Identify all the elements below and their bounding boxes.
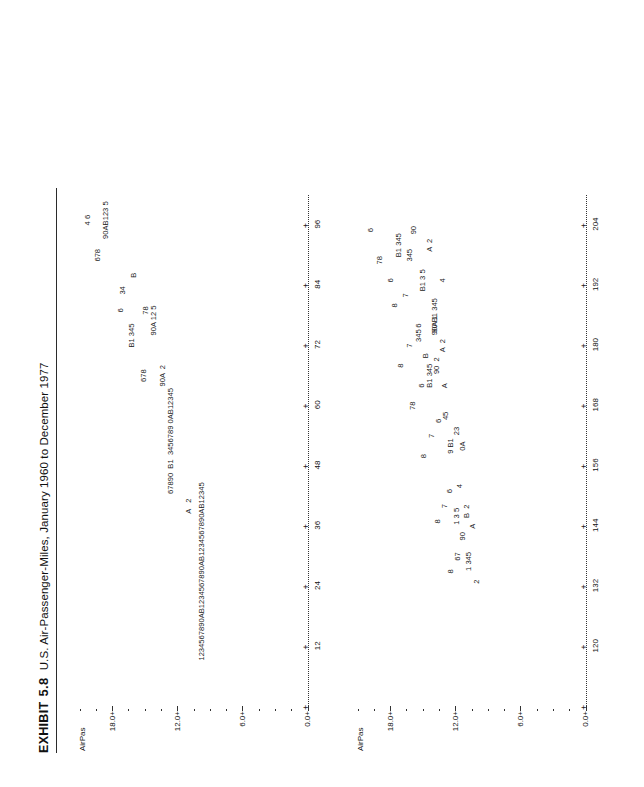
plot-symbol: 90A 1 [430,316,439,335]
plot-symbol: 345 [405,249,414,262]
y-axis-minor-tick [96,709,97,711]
y-axis-major-tick [520,706,521,711]
x-axis-tick: + [302,584,312,589]
x-axis-tick: + [580,644,590,649]
y-axis-minor-tick [472,709,473,711]
plot-symbol: 6 [366,228,375,232]
exhibit-caption: EXHIBIT5.8U.S. Air-Passenger-Miles, Janu… [36,153,51,753]
document-page: EXHIBIT5.8U.S. Air-Passenger-Miles, Janu… [0,0,644,787]
x-tick-label: 168 [591,395,600,415]
x-axis-tick: + [580,524,590,529]
x-tick-label: 72 [313,335,322,355]
y-axis-minor-tick [291,709,292,711]
plot-symbol: 90 [458,532,467,540]
y-tick-label: 0.0+ [581,711,590,749]
y-axis-minor-tick [161,709,162,711]
y-tick-label: 18.0+ [386,711,395,749]
x-axis-tick: + [302,464,312,469]
x-tick-label: 132 [591,576,600,596]
plot-symbol: 8 [396,364,405,368]
chart-panel-2: AirPas18.0+12.0+6.0+0.0+++120+132+144+15… [352,187,620,753]
plot-symbol: 90AB123 5 [101,201,110,239]
x-tick-label: 12 [313,636,322,656]
y-tick-label: 18.0+ [108,711,117,749]
y-axis-minor-tick [569,709,570,711]
x-tick-label: 144 [591,515,600,535]
y-tick-label: 12.0+ [173,711,182,749]
plot-symbol: 90A 12 5 [149,306,158,336]
plot-symbol: 8 [390,303,399,307]
y-axis-minor-tick [226,709,227,711]
y-axis-minor-tick [439,709,440,711]
plot-symbol: B 2 [462,504,471,518]
plot-symbol: 9 B1 [446,438,455,454]
y-tick-label: 12.0+ [451,711,460,749]
x-tick-label: 204 [591,214,600,234]
header-rule [56,188,57,753]
y-axis-minor-tick [80,709,81,711]
plot-symbol: A 2 [438,339,447,352]
y-axis-minor-tick [275,709,276,711]
x-tick-label: 24 [313,576,322,596]
x-axis-line [308,195,309,707]
y-axis-minor-tick [423,709,424,711]
plot-symbol: 90 2 [432,357,441,374]
y-axis-minor-tick [145,709,146,711]
y-axis-major-tick [242,706,243,711]
plot-symbol: 4 [455,484,464,488]
rotated-page-content: EXHIBIT5.8U.S. Air-Passenger-Miles, Janu… [0,0,644,787]
x-tick-label: 120 [591,636,600,656]
x-axis-tick: + [302,343,312,348]
plot-symbol: 345 [414,329,423,342]
exhibit-title-text: U.S. Air-Passenger-Miles, January 1960 t… [38,362,50,670]
y-axis-label: AirPas [78,727,87,751]
x-tick-label: 156 [591,455,600,475]
y-axis-major-tick [390,706,391,711]
x-axis-tick: + [302,283,312,288]
plot-symbol: 78 [375,256,384,264]
plot-symbol: 7 [440,504,449,508]
y-axis-major-tick [112,706,113,711]
x-axis-tick: + [580,403,590,408]
x-tick-label: 192 [591,274,600,294]
x-axis-tick: + [580,343,590,348]
x-axis-tick: + [302,223,312,228]
plot-symbol: A 2 [425,239,434,252]
plot-symbol: B1 3 5 [418,269,427,291]
exhibit-label: EXHIBIT [37,702,51,753]
plot-symbol: 78 [408,402,417,410]
plot-symbol: 67890 B1 3456789 0AB12345 [166,388,175,494]
plot-symbol: 7 [427,434,436,438]
plot-symbol: 2 [472,579,481,583]
y-axis-minor-tick [358,709,359,711]
plot-symbol: 678 [93,249,102,262]
plot-symbol: 8 [446,569,455,573]
x-tick-label: 96 [313,214,322,234]
plot-symbol: 1234567890AB1234567890AB1234567890AB1234… [197,482,206,660]
x-tick-label: 84 [313,274,322,294]
x-tick-label: 60 [313,395,322,415]
x-axis-line [586,195,587,707]
plot-symbol: B1 345 [394,233,403,257]
plot-symbol: 6 [414,323,423,327]
y-axis-minor-tick [504,709,505,711]
plot-symbol: 67 [453,552,462,560]
chart-panel-1: AirPas18.0+12.0+6.0+0.0+++12+24+36+48+60… [74,187,342,753]
y-axis-minor-tick [194,709,195,711]
plot-symbol: 8 [433,519,442,523]
x-tick-label: 36 [313,515,322,535]
y-axis-minor-tick [537,709,538,711]
plot-symbol: B [421,353,430,358]
x-axis-origin-tick: + [302,705,312,710]
plot-symbol: B [129,273,138,278]
plot-symbol: 8 [419,454,428,458]
x-tick-label: 180 [591,335,600,355]
y-axis-minor-tick [210,709,211,711]
y-axis-minor-tick [406,709,407,711]
plot-symbol: 23 [452,427,461,435]
y-axis-major-tick [455,706,456,711]
x-axis-tick: + [302,644,312,649]
plot-symbol: A 2 [184,499,193,514]
y-axis-minor-tick [128,709,129,711]
y-tick-label: 6.0+ [516,711,525,749]
